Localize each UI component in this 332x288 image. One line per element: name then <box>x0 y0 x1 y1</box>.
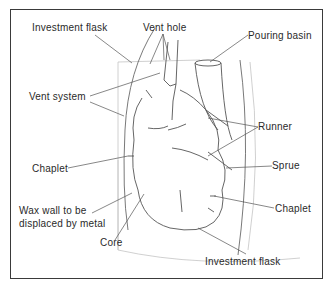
label-investment-flask-bottom: Investment flask <box>205 256 280 268</box>
label-chaplet-left: Chaplet <box>32 163 68 175</box>
label-investment-flask-top: Investment flask <box>32 22 107 34</box>
label-vent-hole: Vent hole <box>143 22 187 34</box>
label-pouring-basin: Pouring basin <box>248 30 312 42</box>
label-core: Core <box>100 237 122 249</box>
wax-figure <box>133 90 226 230</box>
label-runner: Runner <box>258 121 292 133</box>
label-wax-wall-line2: displaced by metal <box>19 218 105 230</box>
chaplets <box>128 156 216 196</box>
vent-system <box>146 40 178 120</box>
label-chaplet-right: Chaplet <box>275 203 311 215</box>
label-wax-wall-line1: Wax wall to be <box>19 205 86 217</box>
lost-wax-casting-drawing <box>0 0 332 288</box>
flask-curved-wall <box>124 28 246 255</box>
pouring-basin <box>195 60 232 140</box>
label-sprue: Sprue <box>272 160 300 172</box>
label-vent-system: Vent system <box>29 91 86 103</box>
